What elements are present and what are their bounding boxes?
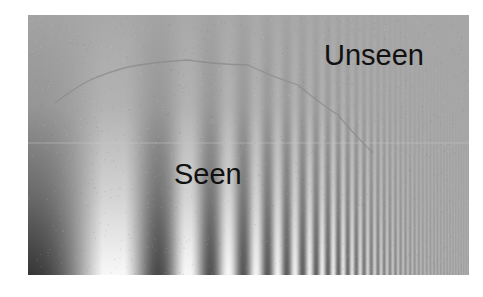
unseen-label: Unseen <box>324 41 424 70</box>
contrast-sensitivity-chart: Unseen Seen <box>28 15 469 275</box>
seen-label: Seen <box>174 160 242 189</box>
